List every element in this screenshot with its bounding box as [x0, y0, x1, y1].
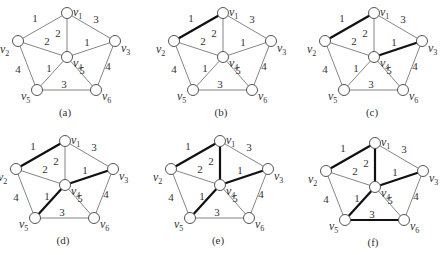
edge-weight-v1-v3: 3 [93, 13, 99, 25]
node-label-v3: v3 [429, 171, 438, 187]
edge-weight-v1-v2: 1 [185, 140, 191, 152]
edge-weight-v1-v3: 3 [246, 141, 252, 153]
edge-weight-v5-v6: 3 [369, 208, 375, 220]
panel-caption-d: (d) [57, 234, 70, 247]
node-label-subscript: 5 [179, 224, 183, 233]
node-label-subscript: 4 [78, 63, 82, 72]
edge-weight-v4-v5: 1 [44, 190, 50, 202]
node-label-v4: v4 [381, 186, 390, 202]
edge-weight-v1-v4: 2 [208, 155, 214, 167]
edge-v2-v5 [325, 41, 344, 90]
edge-weight-v3-v6: 4 [258, 188, 264, 200]
panel-caption-c: (c) [366, 106, 379, 119]
node-v5 [32, 85, 43, 96]
node-label-subscript: 2 [313, 179, 317, 188]
node-v6 [247, 85, 258, 96]
edge-v2-v4 [18, 41, 67, 57]
edge-weight-v3-v6: 4 [412, 60, 418, 72]
node-v4 [215, 180, 226, 191]
edge-weight-v2-v5: 4 [15, 63, 21, 75]
node-label-subscript: 6 [107, 96, 111, 105]
node-label-v3: v3 [428, 41, 437, 57]
graph-panel-f: 1322141543v1v2v3v4v5v6(f) [308, 135, 438, 249]
node-label-subscript: 6 [414, 96, 418, 105]
edge-weight-v1-v3: 3 [400, 13, 406, 25]
edge-v3-v4-selected [374, 41, 422, 57]
node-label-v5: v5 [19, 217, 28, 233]
edge-v2-v5 [326, 171, 345, 220]
edge-v2-v4 [16, 169, 65, 185]
node-v4 [62, 52, 73, 63]
node-v5 [188, 85, 199, 96]
edge-weight-v1-v4: 2 [363, 157, 369, 169]
panel-caption-a: (a) [59, 106, 72, 119]
edge-v2-v5 [16, 169, 35, 218]
node-label-subscript: 1 [76, 140, 80, 149]
node-label-subscript: 1 [231, 140, 235, 149]
edge-weight-v2-v4: 2 [44, 35, 50, 47]
edge-v2-v5 [174, 41, 193, 90]
edge-weight-v4-v5: 1 [46, 62, 52, 74]
node-label-v4: v4 [380, 56, 389, 72]
node-v3 [108, 164, 119, 175]
edge-weight-v1-v4: 2 [53, 155, 59, 167]
edge-weight-v4-v5: 1 [199, 190, 205, 202]
node-label-v2: v2 [156, 42, 165, 58]
edge-v2-v5 [18, 41, 37, 90]
node-v3 [266, 36, 277, 47]
node-label-v3: v3 [119, 169, 128, 185]
node-label-v4: v4 [226, 184, 235, 200]
node-label-subscript: 2 [312, 49, 316, 58]
node-label-v2: v2 [0, 42, 9, 58]
edge-weight-v3-v4: 1 [391, 36, 397, 48]
node-label-v6: v6 [100, 217, 109, 233]
node-v4 [370, 182, 381, 193]
node-v1 [218, 8, 229, 19]
edge-weight-v1-v4: 2 [211, 27, 217, 39]
node-label-v5: v5 [174, 217, 183, 233]
edge-v3-v4-selected [65, 169, 113, 185]
node-v2 [13, 36, 24, 47]
node-v6 [244, 213, 255, 224]
edge-weight-v1-v4: 2 [55, 27, 61, 39]
edge-v2-v4 [325, 41, 374, 57]
node-label-subscript: 3 [124, 176, 128, 185]
graph-panel-d: 1322141543v1v2v3v4v5v6(d) [0, 133, 128, 247]
node-v2 [11, 164, 22, 175]
edge-weight-v2-v4: 2 [351, 35, 357, 47]
edge-weight-v2-v5: 4 [323, 193, 329, 205]
node-label-subscript: 6 [415, 226, 419, 235]
node-v6 [91, 85, 102, 96]
node-label-v1: v1 [71, 133, 80, 149]
node-label-subscript: 4 [234, 63, 238, 72]
node-label-subscript: 1 [234, 12, 238, 21]
node-label-v6: v6 [409, 89, 418, 105]
node-v6 [398, 85, 409, 96]
graph-panel-b: 1322141543v1v2v3v4v5v6(b) [156, 5, 286, 119]
edge-v2-v4 [174, 41, 223, 57]
node-label-v2: v2 [153, 170, 162, 186]
graph-panel-a: 1322141543v1v2v3v4v5v6(a) [0, 5, 130, 119]
edge-weight-v1-v2: 1 [339, 12, 345, 24]
edge-weight-v1-v3: 3 [401, 143, 407, 155]
edge-weight-v1-v3: 3 [249, 13, 255, 25]
panel-caption-e: (e) [212, 234, 225, 247]
node-label-subscript: 2 [5, 49, 9, 58]
node-v1 [62, 8, 73, 19]
node-label-v6: v6 [258, 89, 267, 105]
node-label-subscript: 3 [279, 176, 283, 185]
node-label-v1: v1 [380, 5, 389, 21]
edge-weight-v3-v4: 1 [84, 36, 90, 48]
node-label-subscript: 5 [333, 96, 337, 105]
edge-v2-v5 [171, 169, 190, 218]
node-label-v3: v3 [274, 169, 283, 185]
node-label-subscript: 4 [386, 193, 390, 202]
node-label-v3: v3 [121, 41, 130, 57]
edge-weight-v3-v6: 4 [413, 190, 419, 202]
node-label-v5: v5 [328, 89, 337, 105]
edge-weight-v5-v6: 3 [59, 206, 65, 218]
edge-weight-v1-v4: 2 [362, 27, 368, 39]
edge-weight-v5-v6: 3 [61, 78, 67, 90]
node-v2 [169, 36, 180, 47]
node-v1 [369, 8, 380, 19]
